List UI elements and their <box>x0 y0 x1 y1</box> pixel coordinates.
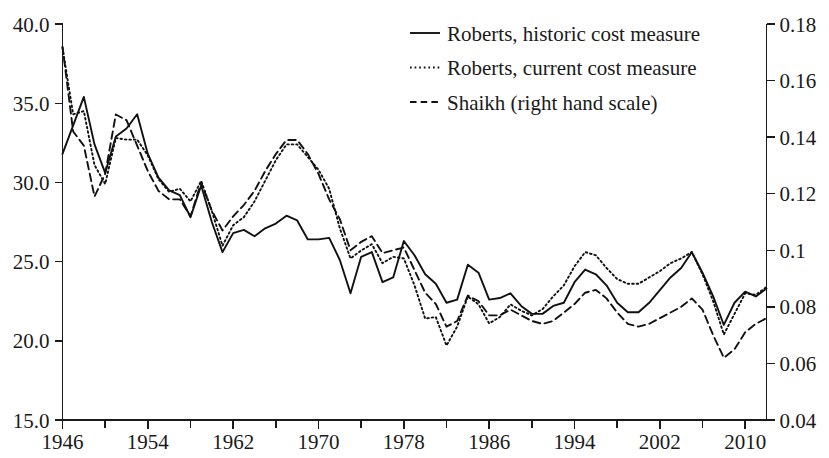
chart-legend: Roberts, historic cost measureRoberts, c… <box>410 22 700 115</box>
y-axis-left-tick-label: 40.0 <box>13 13 50 37</box>
y-axis-left-tick-label: 25.0 <box>13 250 50 274</box>
chart-container: 15.020.025.030.035.040.0 0.040.060.080.1… <box>0 0 829 458</box>
y-axis-left-tick-label: 20.0 <box>13 329 50 353</box>
x-axis-tick-label: 2002 <box>639 430 681 454</box>
y-axis-right-tick-label: 0.18 <box>780 13 817 37</box>
legend-label-1: Roberts, current cost measure <box>447 56 697 80</box>
y-axis-right-tick-label: 0.06 <box>780 352 817 376</box>
profit-rate-line-chart: 15.020.025.030.035.040.0 0.040.060.080.1… <box>0 0 829 458</box>
y-axis-right-tick-label: 0.04 <box>780 409 817 433</box>
y-axis-left-tick-label: 15.0 <box>13 409 50 433</box>
legend-label-2: Shaikh (right hand scale) <box>447 91 658 115</box>
x-axis-tick-label: 1962 <box>212 430 254 454</box>
y-axis-right-tick-label: 0.1 <box>780 239 806 263</box>
y-axis-right-tick-label: 0.16 <box>780 69 817 93</box>
legend-label-0: Roberts, historic cost measure <box>447 22 700 46</box>
x-axis-tick-label: 1954 <box>127 430 170 454</box>
y-axis-left-tick-label: 35.0 <box>13 92 50 116</box>
y-axis-left-tick-label: 30.0 <box>13 171 50 195</box>
x-axis-tick-label: 1946 <box>42 430 84 454</box>
plot-background <box>0 0 829 458</box>
x-axis-tick-label: 1994 <box>554 430 597 454</box>
x-axis-tick-label: 2010 <box>724 430 766 454</box>
x-axis-tick-label: 1970 <box>298 430 340 454</box>
y-axis-right-tick-label: 0.14 <box>780 126 817 150</box>
y-axis-right-tick-label: 0.12 <box>780 182 817 206</box>
x-axis-tick-label: 1986 <box>468 430 510 454</box>
x-axis-tick-label: 1978 <box>383 430 425 454</box>
y-axis-right-tick-label: 0.08 <box>780 295 817 319</box>
